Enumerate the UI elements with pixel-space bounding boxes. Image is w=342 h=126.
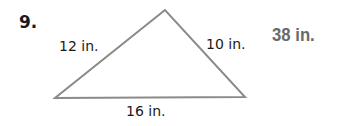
triangle-figure — [0, 0, 342, 126]
answer-perimeter: 38 in. — [272, 24, 315, 46]
side-label-left: 12 in. — [59, 38, 98, 54]
side-label-right: 10 in. — [206, 36, 245, 52]
side-label-bottom: 16 in. — [126, 103, 165, 119]
